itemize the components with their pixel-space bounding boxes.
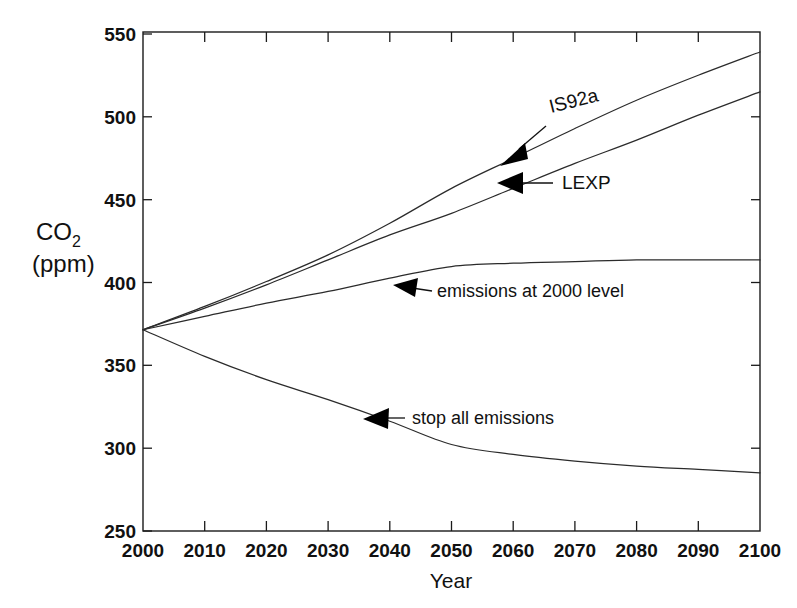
- annotation-lexp-label: LEXP: [562, 172, 611, 193]
- annotation-emissions-2000-label: emissions at 2000 level: [437, 281, 624, 301]
- annotation-is92a: IS92a: [500, 84, 601, 166]
- annotation-lexp-arrowhead: [497, 172, 523, 194]
- x-tick-label-2010: 2010: [184, 540, 226, 561]
- y-tick-label-300: 300: [104, 438, 136, 459]
- annotation-emissions-2000-arrowhead: [393, 278, 418, 297]
- y-axis-title-main: CO: [36, 218, 72, 245]
- x-axis-title: Year: [430, 569, 472, 592]
- y-tick-label-350: 350: [104, 355, 136, 376]
- y-tick-label-450: 450: [104, 190, 136, 211]
- annotation-emissions-at-2000-level: emissions at 2000 level: [393, 278, 624, 301]
- y-tick-label-500: 500: [104, 107, 136, 128]
- y-tick-marks-right: [751, 117, 760, 448]
- annotation-stop-all-label: stop all emissions: [412, 408, 554, 428]
- x-tick-label-2060: 2060: [492, 540, 534, 561]
- figure-container: 250 300 350 400 450 500 550 2000 2010 20…: [0, 0, 797, 608]
- y-axis-title-units: (ppm): [32, 250, 95, 277]
- x-tick-labels: 2000 2010 2020 2030 2040 2050 2060 2070 …: [122, 540, 781, 561]
- y-tick-label-400: 400: [104, 273, 136, 294]
- x-tick-label-2050: 2050: [430, 540, 472, 561]
- y-axis-title: CO 2 (ppm): [32, 218, 95, 277]
- annotation-is92a-label: IS92a: [547, 84, 601, 116]
- x-tick-marks-top: [205, 32, 699, 42]
- y-tick-label-250: 250: [104, 521, 136, 542]
- x-tick-label-2080: 2080: [615, 540, 657, 561]
- x-tick-label-2090: 2090: [677, 540, 719, 561]
- y-axis-title-subscript: 2: [72, 233, 81, 250]
- x-tick-marks: [205, 521, 699, 531]
- x-tick-label-2040: 2040: [369, 540, 411, 561]
- curve-stop-all-emissions: [143, 330, 760, 473]
- annotation-stop-all-arrowhead: [363, 408, 389, 429]
- y-tick-label-550: 550: [104, 24, 136, 45]
- y-tick-marks: [143, 34, 152, 531]
- x-tick-label-2030: 2030: [307, 540, 349, 561]
- annotation-stop-all-emissions: stop all emissions: [363, 408, 554, 429]
- x-tick-label-2000: 2000: [122, 540, 164, 561]
- x-tick-label-2100: 2100: [739, 540, 781, 561]
- x-tick-label-2070: 2070: [554, 540, 596, 561]
- annotation-lexp: LEXP: [497, 172, 611, 194]
- co2-projection-chart: 250 300 350 400 450 500 550 2000 2010 20…: [0, 0, 797, 608]
- y-tick-labels: 250 300 350 400 450 500 550: [104, 24, 136, 542]
- x-tick-label-2020: 2020: [245, 540, 287, 561]
- annotation-is92a-arrowhead: [500, 143, 528, 166]
